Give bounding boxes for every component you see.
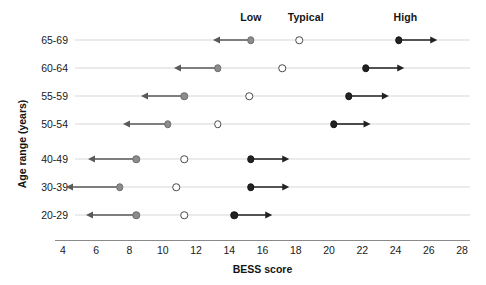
x-tick-24: 24 <box>390 244 402 256</box>
bess-score-chart: LowTypicalHigh Age range (years) 65-6960… <box>0 0 486 285</box>
marker-typical-30-39 <box>172 183 180 191</box>
marker-high-40-49 <box>247 155 255 163</box>
x-tick-28: 28 <box>456 244 468 256</box>
marker-typical-20-29 <box>181 211 189 219</box>
x-tick-26: 26 <box>423 244 435 256</box>
marker-typical-50-54 <box>214 120 222 128</box>
x-tick-10: 10 <box>157 244 169 256</box>
arrow-low-left <box>66 181 119 193</box>
arrow-high-right <box>251 181 289 193</box>
marker-typical-65-69 <box>295 36 303 44</box>
arrow-high-right <box>349 90 389 102</box>
arrow-low-left <box>141 90 184 102</box>
marker-typical-40-49 <box>181 155 189 163</box>
marker-low-60-64 <box>214 64 222 72</box>
x-tick-16: 16 <box>257 244 269 256</box>
marker-typical-60-64 <box>279 64 287 72</box>
arrow-low-left <box>213 34 251 46</box>
arrow-high-right <box>366 62 404 74</box>
marker-low-40-49 <box>132 155 140 163</box>
arrow-low-left <box>174 62 217 74</box>
marker-high-60-64 <box>362 64 370 72</box>
arrow-high-right <box>334 118 371 130</box>
arrow-low-left <box>88 153 136 165</box>
plot-area <box>0 0 486 285</box>
marker-low-65-69 <box>247 36 255 44</box>
arrow-high-right <box>251 153 289 165</box>
marker-high-30-39 <box>247 183 255 191</box>
marker-high-50-54 <box>330 120 338 128</box>
marker-low-50-54 <box>164 120 172 128</box>
x-tick-14: 14 <box>223 244 235 256</box>
marker-low-55-59 <box>181 92 189 100</box>
marker-high-65-69 <box>395 36 403 44</box>
x-tick-18: 18 <box>290 244 302 256</box>
arrow-low-left <box>123 118 168 130</box>
x-tick-8: 8 <box>127 244 133 256</box>
marker-low-30-39 <box>116 183 124 191</box>
marker-high-20-29 <box>230 211 238 219</box>
x-tick-22: 22 <box>356 244 368 256</box>
arrow-high-right <box>399 34 437 46</box>
marker-typical-55-59 <box>245 92 253 100</box>
arrow-high-right <box>234 209 272 221</box>
x-axis-line <box>55 240 470 241</box>
arrow-low-left <box>86 209 136 221</box>
x-tick-4: 4 <box>60 244 66 256</box>
x-tick-12: 12 <box>190 244 202 256</box>
x-axis-title: BESS score <box>233 263 293 275</box>
x-tick-20: 20 <box>323 244 335 256</box>
marker-low-20-29 <box>132 211 140 219</box>
row-baseline <box>75 96 470 97</box>
x-tick-6: 6 <box>93 244 99 256</box>
marker-high-55-59 <box>345 92 353 100</box>
row-baseline <box>75 68 470 69</box>
